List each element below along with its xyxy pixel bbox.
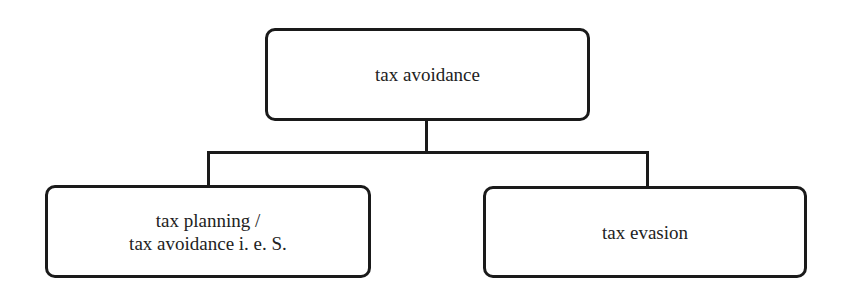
node-label: tax evasion <box>602 221 688 244</box>
connector-to-right-child <box>646 151 649 187</box>
connector-root-down <box>425 120 428 153</box>
node-label: tax avoidance <box>375 63 480 86</box>
node-tax-avoidance: tax avoidance <box>265 28 590 121</box>
node-tax-evasion: tax evasion <box>483 186 807 278</box>
connector-horizontal-branch <box>207 151 649 154</box>
node-tax-planning: tax planning / tax avoidance i. e. S. <box>45 185 371 278</box>
node-label-line-2: tax avoidance i. e. S. <box>129 232 287 255</box>
node-label-line-1: tax planning / <box>129 209 287 232</box>
connector-to-left-child <box>207 151 210 186</box>
